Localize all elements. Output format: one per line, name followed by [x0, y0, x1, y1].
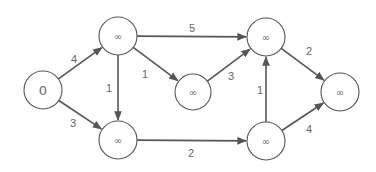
edge-arrow	[282, 103, 323, 130]
edge-A-C: 3	[59, 101, 102, 129]
edge-weight-label: 4	[71, 53, 77, 65]
edge-B-C: 1	[106, 55, 118, 120]
node-distance-label: ∞	[336, 87, 344, 98]
node-distance-label: ∞	[262, 32, 270, 43]
node-B: ∞	[99, 17, 137, 55]
node-C: ∞	[99, 121, 137, 159]
node-distance-label: ∞	[114, 31, 122, 42]
edge-arrow	[133, 47, 178, 80]
edge-weight-label: 1	[142, 68, 148, 80]
nodes-layer: 0∞∞∞∞∞∞	[24, 17, 359, 160]
node-distance-label: 0	[39, 83, 47, 98]
edge-weight-label: 5	[189, 22, 195, 34]
edge-weight-label: 2	[306, 45, 312, 57]
node-F: ∞	[247, 122, 285, 160]
edge-weight-label: 3	[70, 117, 76, 129]
edge-weight-label: 3	[228, 70, 234, 82]
node-E: ∞	[247, 18, 285, 56]
edge-B-D: 1	[133, 47, 178, 80]
edge-arrow	[137, 36, 246, 37]
node-A: 0	[24, 71, 62, 109]
edge-B-E: 5	[137, 22, 246, 37]
edge-arrow	[281, 48, 324, 80]
node-distance-label: ∞	[114, 135, 122, 146]
edge-A-B: 4	[58, 48, 101, 79]
node-distance-label: ∞	[189, 87, 197, 98]
node-D: ∞	[175, 74, 211, 110]
edge-weight-label: 2	[188, 147, 194, 159]
edge-arrow	[58, 48, 101, 79]
edge-weight-label: 4	[306, 123, 312, 135]
node-distance-label: ∞	[262, 136, 270, 147]
edge-E-G: 2	[281, 45, 324, 80]
edge-F-G: 4	[282, 103, 323, 135]
edge-F-E: 1	[257, 57, 266, 122]
edge-C-F: 2	[137, 140, 246, 159]
edge-arrow	[137, 140, 246, 141]
edge-weight-label: 1	[106, 82, 112, 94]
node-G: ∞	[321, 73, 359, 111]
graph-diagram: 4311532124 0∞∞∞∞∞∞	[0, 0, 376, 172]
edge-weight-label: 1	[257, 84, 263, 96]
graph-canvas: 4311532124 0∞∞∞∞∞∞	[0, 0, 376, 172]
edge-D-E: 3	[207, 49, 250, 82]
edge-arrow	[59, 101, 102, 129]
